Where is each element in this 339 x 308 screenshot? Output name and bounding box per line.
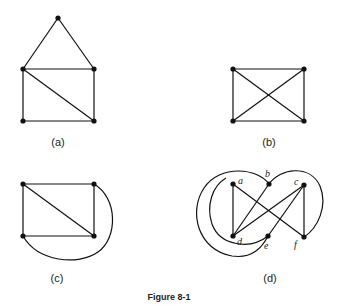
- graph-c: (c): [20, 181, 112, 284]
- panel-label-d: (d): [263, 272, 276, 284]
- panel-label-b: (b): [262, 136, 275, 148]
- panel-label-c: (c): [51, 272, 64, 284]
- figure-8-1: (a) (b) (c): [0, 0, 339, 308]
- vertex-label-c: c: [294, 176, 299, 187]
- vertex-label-a: a: [238, 175, 243, 186]
- figure-caption: Figure 8-1: [147, 292, 190, 302]
- panel-label-a: (a): [51, 136, 64, 148]
- graph-b: (b): [230, 66, 306, 148]
- vertex-label-f: f: [294, 239, 298, 250]
- vertex-label-d: d: [237, 236, 243, 247]
- vertex-label-b: b: [265, 168, 270, 179]
- graph-a: (a): [20, 15, 96, 148]
- vertex-label-e: e: [264, 240, 269, 251]
- graph-d: a b c d e f (d): [197, 168, 323, 284]
